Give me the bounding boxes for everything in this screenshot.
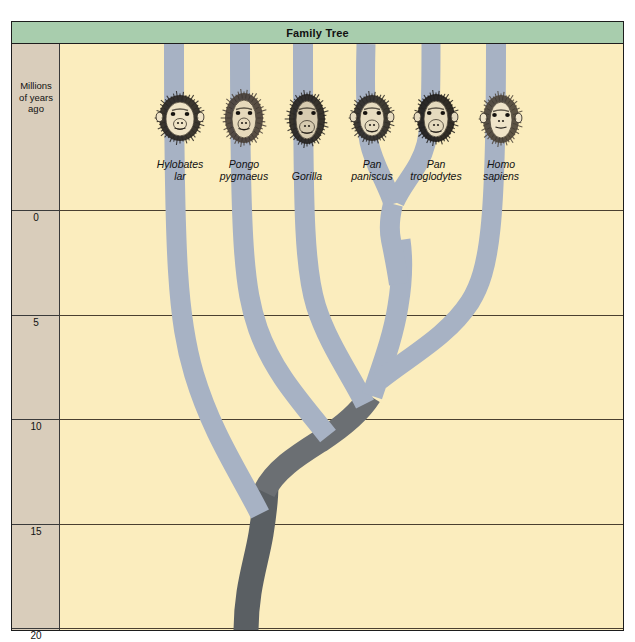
taxon-species-pongo: pygmaeus <box>211 170 277 182</box>
taxon-paniscus[interactable]: Panpaniscus <box>339 44 405 182</box>
time-scale-axis: Millions of years ago 05101520 <box>12 44 60 630</box>
taxon-header-row: HylobateslarPongopygmaeusGorillaPanpanis… <box>60 44 623 210</box>
gibbon-head-icon <box>147 76 213 154</box>
axis-title-line-2: of years <box>12 92 60 104</box>
taxon-genus-hylobates: Hylobates <box>147 158 213 170</box>
axis-title-line-1: Millions <box>12 80 60 92</box>
taxon-genus-gorilla: Gorilla <box>274 170 340 182</box>
taxon-label-homo: Homosapiens <box>468 158 534 182</box>
taxon-species-troglodytes: troglodytes <box>403 170 469 182</box>
taxon-genus-paniscus: Pan <box>339 158 405 170</box>
axis-title: Millions of years ago <box>12 80 60 115</box>
axis-tick-label-15: 15 <box>12 526 60 544</box>
taxon-label-troglodytes: Pantroglodytes <box>403 158 469 182</box>
taxon-troglodytes[interactable]: Pantroglodytes <box>403 44 469 182</box>
taxon-species-homo: sapiens <box>468 170 534 182</box>
taxon-hylobates[interactable]: Hylobateslar <box>147 44 213 182</box>
taxon-species-hylobates: lar <box>147 170 213 182</box>
taxon-genus-pongo: Pongo <box>211 158 277 170</box>
taxon-genus-troglodytes: Pan <box>403 158 469 170</box>
taxon-label-pongo: Pongopygmaeus <box>211 158 277 182</box>
taxon-pongo[interactable]: Pongopygmaeus <box>211 44 277 182</box>
axis-tick-label-5: 5 <box>12 317 60 335</box>
branch-pan-clade-stem <box>390 204 399 284</box>
bonobo-head-icon <box>339 76 405 154</box>
axis-tick-label-0: 0 <box>12 212 60 230</box>
axis-tick-line-5 <box>12 315 60 316</box>
taxon-species-paniscus: paniscus <box>339 170 405 182</box>
axis-tick-line-10 <box>12 419 60 420</box>
axis-tick-line-20 <box>12 628 60 629</box>
gorilla-head-icon <box>274 76 340 154</box>
figure-title-bar: Family Tree <box>12 22 623 44</box>
axis-title-line-3: ago <box>12 103 60 115</box>
axis-tick-line-15 <box>12 524 60 525</box>
page-title: Family Tree <box>286 27 349 39</box>
family-tree-figure: Family Tree Millions of years ago 051015… <box>11 21 624 631</box>
taxon-gorilla[interactable]: Gorilla <box>274 44 340 182</box>
axis-tick-label-20: 20 <box>12 630 60 642</box>
taxon-label-hylobates: Hylobateslar <box>147 158 213 182</box>
axis-tick-line-0 <box>12 210 60 211</box>
taxon-label-paniscus: Panpaniscus <box>339 158 405 182</box>
taxon-label-gorilla: Gorilla <box>274 170 340 182</box>
taxon-homo[interactable]: Homosapiens <box>468 44 534 182</box>
taxon-genus-homo: Homo <box>468 158 534 170</box>
human-head-icon <box>468 76 534 154</box>
orangutan-head-icon <box>211 76 277 154</box>
chimpanzee-head-icon <box>403 76 469 154</box>
axis-tick-label-10: 10 <box>12 421 60 439</box>
